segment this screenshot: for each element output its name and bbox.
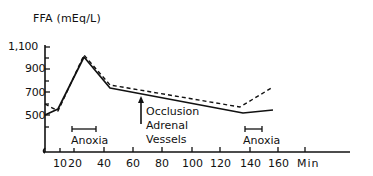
x-tick-label-140: 140 <box>240 157 261 170</box>
anoxia-label-2: Anoxia <box>243 134 280 147</box>
x-tick-label-40: 40 <box>97 157 111 170</box>
x-tick-label-80: 80 <box>155 157 169 170</box>
anoxia-label-1: Anoxia <box>71 134 108 147</box>
x-tick-label-10: 10 <box>53 157 67 170</box>
occlusion-label-line1: Occlusion <box>146 105 199 118</box>
x-tick-label-160: 160 <box>268 157 289 170</box>
x-axis-title: Min <box>297 157 320 170</box>
x-tick-label-120: 120 <box>210 157 231 170</box>
y-axis-title: FFA (mEq/L) <box>33 12 101 25</box>
anoxia-interval-2 <box>245 126 262 132</box>
y-tick-label-500: 500 <box>25 109 45 122</box>
y-tick-label-900: 900 <box>25 62 45 75</box>
occlusion-arrow-icon <box>138 96 144 124</box>
x-tick-label-20: 20 <box>68 157 82 170</box>
ffa-line-chart: FFA (mEq/L) 1,100 900 700 500 10 20 40 6… <box>0 0 373 176</box>
anoxia-interval-1 <box>72 126 96 132</box>
y-tick-label-700: 700 <box>25 86 45 99</box>
series-dashed-line <box>45 55 273 111</box>
y-tick-label-1100: 1,100 <box>8 40 38 53</box>
x-tick-label-60: 60 <box>126 157 140 170</box>
occlusion-label-line3: Vessels <box>146 133 187 146</box>
x-tick-label-100: 100 <box>182 157 203 170</box>
occlusion-label-line2: Adrenal <box>146 119 188 132</box>
